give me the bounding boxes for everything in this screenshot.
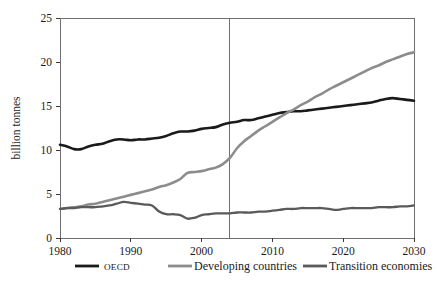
chart-legend: OECDDeveloping countriesTransition econo… bbox=[75, 259, 433, 273]
x-tick-label: 2030 bbox=[403, 245, 426, 257]
x-tick-label: 2020 bbox=[332, 245, 355, 257]
y-tick-group: 0510152025 bbox=[41, 12, 61, 244]
y-tick-label: 10 bbox=[41, 144, 53, 156]
legend-label-oecd: OECD bbox=[104, 262, 130, 272]
y-tick-label: 25 bbox=[41, 12, 53, 24]
y-tick-label: 0 bbox=[46, 232, 52, 244]
x-tick-label: 1990 bbox=[119, 245, 142, 257]
y-axis-title: billion tonnes bbox=[10, 96, 22, 159]
y-tick-label: 20 bbox=[41, 56, 53, 68]
legend-label-transition-economies: Transition economies bbox=[329, 259, 433, 273]
x-tick-label: 2000 bbox=[190, 245, 213, 257]
chart-figure: 0510152025 198019902000201020202030 bill… bbox=[0, 0, 437, 287]
line-chart-canvas: 0510152025 198019902000201020202030 bill… bbox=[0, 0, 437, 287]
y-tick-label: 15 bbox=[41, 100, 53, 112]
x-tick-label: 1980 bbox=[49, 245, 72, 257]
y-tick-label: 5 bbox=[46, 188, 52, 200]
x-tick-group: 198019902000201020202030 bbox=[49, 238, 426, 257]
x-tick-label: 2010 bbox=[261, 245, 284, 257]
legend-label-developing-countries: Developing countries bbox=[194, 259, 297, 273]
